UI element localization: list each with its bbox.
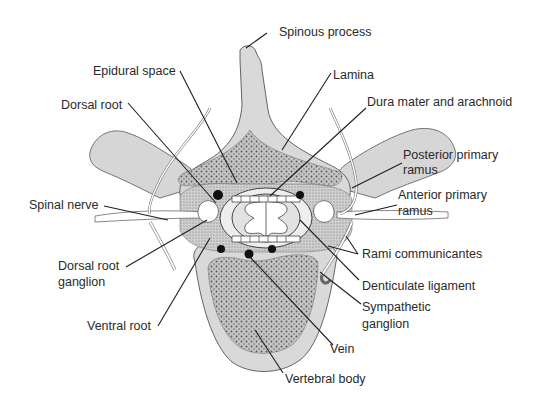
label-ventral-root: Ventral root	[87, 319, 151, 334]
label-spinal-nerve: Spinal nerve	[29, 198, 99, 213]
label-sympathetic-ganglion-line2: ganglion	[362, 317, 409, 332]
label-vertebral-body: Vertebral body	[285, 372, 366, 387]
label-dorsal-root-ganglion-line1: Dorsal root	[58, 259, 119, 274]
label-vein: Vein	[330, 342, 354, 357]
label-dorsal-root: Dorsal root	[61, 98, 122, 113]
right-dorsal-root-ganglion	[314, 201, 334, 223]
label-dorsal-root-ganglion-line2: ganglion	[58, 275, 105, 290]
left-dorsal-root-ganglion	[198, 201, 218, 223]
label-anterior-primary-ramus-line2: ramus	[398, 204, 433, 219]
label-spinous-process: Spinous process	[279, 25, 371, 40]
label-sympathetic-ganglion-line1: Sympathetic	[362, 300, 431, 315]
label-anterior-primary-ramus-line1: Anterior primary	[398, 188, 487, 203]
label-denticulate-ligament: Denticulate ligament	[362, 279, 475, 294]
label-epidural-space: Epidural space	[93, 64, 176, 79]
label-posterior-primary-ramus-line2: ramus	[403, 163, 438, 178]
label-lamina: Lamina	[333, 68, 374, 83]
label-posterior-primary-ramus-line1: Posterior primary	[403, 148, 498, 163]
label-rami-communicantes: Rami communicantes	[362, 247, 482, 262]
label-dura-mater-arachnoid: Dura mater and arachnoid	[367, 95, 512, 110]
